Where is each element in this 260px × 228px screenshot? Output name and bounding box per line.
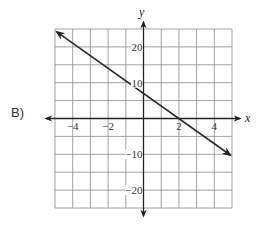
x-axis-label: x [244,111,251,125]
y-tick-label: 20 [132,41,144,53]
option-label: B) [11,105,24,120]
x-tick-label: 4 [212,120,218,132]
x-tick-label: 2 [176,120,182,132]
y-tick-label: −20 [125,184,143,196]
coordinate-plane: −4−2242010−10−20 B) x y [0,0,260,228]
y-tick-label: −10 [125,148,143,160]
y-tick-label: 10 [132,77,144,89]
x-tick-label: −4 [67,120,79,132]
x-tick-label: −2 [102,120,114,132]
y-axis-label: y [138,5,145,19]
